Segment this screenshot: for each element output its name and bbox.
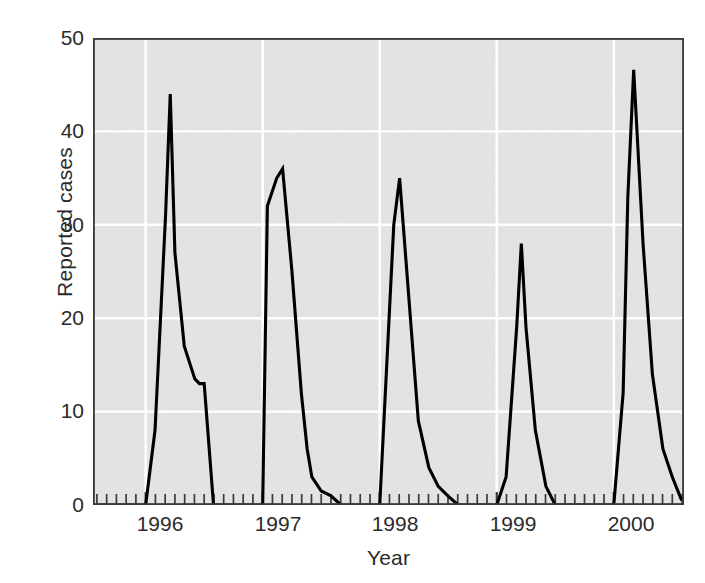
y-tick-label: 40 bbox=[24, 119, 93, 143]
x-axis-label: Year bbox=[93, 546, 684, 570]
x-tick-label: 1997 bbox=[223, 512, 333, 536]
x-tick-label: 1999 bbox=[458, 512, 568, 536]
y-tick-label: 30 bbox=[24, 213, 93, 237]
y-tick-label: 0 bbox=[24, 493, 93, 517]
chart-figure: Reported cases Year 50 40 30 20 10 0 199… bbox=[0, 0, 705, 583]
y-tick-label: 50 bbox=[24, 26, 93, 50]
plot-area bbox=[93, 38, 684, 505]
x-tick-label: 1996 bbox=[105, 512, 215, 536]
plot-svg bbox=[93, 38, 684, 505]
x-tick-label: 2000 bbox=[576, 512, 686, 536]
x-tick-label: 1998 bbox=[340, 512, 450, 536]
y-tick-label: 20 bbox=[24, 306, 93, 330]
paper-grain bbox=[93, 38, 684, 505]
y-tick-label: 10 bbox=[24, 399, 93, 423]
